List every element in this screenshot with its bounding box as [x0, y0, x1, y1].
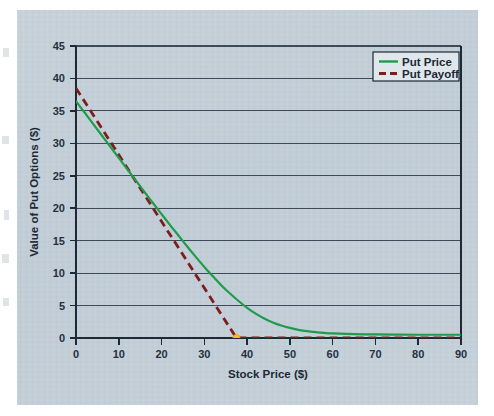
x-tick-label: 90: [455, 348, 467, 360]
x-tick-label: 80: [412, 348, 424, 360]
y-axis-tick-labels: 45 40 35 30 25 20 15 10 5 0: [53, 40, 65, 344]
strike-kink-marker: [233, 334, 240, 341]
x-axis-tick-labels: 0 10 20 30 40 50 60 70 80 90: [73, 348, 467, 360]
x-tick-label: 10: [113, 348, 125, 360]
y-tick-label: 30: [53, 137, 65, 149]
y-tick-label: 10: [53, 267, 65, 279]
x-tick-label: 60: [327, 348, 339, 360]
series-line-put-payoff: [76, 88, 461, 338]
put-option-value-chart: 45 40 35 30 25 20 15 10 5 0 0 10 20 30 4…: [0, 0, 494, 416]
y-tick-label: 45: [53, 40, 65, 52]
y-tick-label: 15: [53, 235, 65, 247]
y-tick-label: 25: [53, 170, 65, 182]
y-tick-label: 40: [53, 72, 65, 84]
x-tick-label: 40: [241, 348, 253, 360]
x-tick-label: 0: [73, 348, 79, 360]
legend-label-put-payoff: Put Payoff: [402, 68, 459, 80]
axis-lines: [76, 46, 461, 338]
y-tick-label: 5: [59, 300, 65, 312]
x-axis-ticks: [76, 338, 461, 345]
y-tick-label: 35: [53, 105, 65, 117]
x-tick-label: 50: [284, 348, 296, 360]
figure-root: 45 40 35 30 25 20 15 10 5 0 0 10 20 30 4…: [0, 0, 494, 416]
x-tick-label: 70: [369, 348, 381, 360]
y-axis-ticks: [70, 46, 76, 338]
chart-legend: Put Price Put Payoff: [373, 52, 459, 81]
y-axis-title: Value of Put Options ($): [28, 127, 40, 257]
x-axis-title: Stock Price ($): [228, 368, 308, 380]
y-tick-label: 0: [59, 332, 65, 344]
series-line-put-price: [76, 101, 461, 335]
legend-label-put-price: Put Price: [402, 56, 452, 68]
x-tick-label: 20: [155, 348, 167, 360]
x-tick-label: 30: [198, 348, 210, 360]
y-tick-label: 20: [53, 202, 65, 214]
data-series-group: [76, 88, 461, 341]
